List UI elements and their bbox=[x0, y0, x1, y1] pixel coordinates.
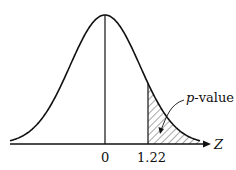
normal-curve-diagram bbox=[0, 0, 236, 170]
p-value-label: p-value bbox=[186, 91, 234, 104]
tick-label-critical: 1.22 bbox=[137, 151, 166, 164]
tick-label-zero: 0 bbox=[101, 151, 109, 164]
axis-label-z: Z bbox=[214, 138, 223, 151]
p-value-suffix: -value bbox=[194, 90, 234, 105]
axis-arrow-icon bbox=[203, 141, 211, 148]
